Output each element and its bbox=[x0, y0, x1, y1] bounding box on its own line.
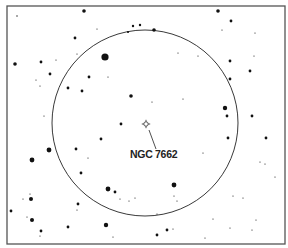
star bbox=[251, 229, 252, 230]
star bbox=[139, 24, 141, 26]
star bbox=[249, 70, 252, 73]
star bbox=[255, 219, 256, 220]
star bbox=[127, 31, 129, 33]
star bbox=[114, 191, 117, 194]
star bbox=[156, 234, 159, 237]
target-label: NGC 7662 bbox=[130, 148, 178, 160]
star bbox=[229, 60, 232, 63]
star bbox=[40, 230, 43, 233]
star bbox=[81, 90, 84, 93]
star-chart: NGC 7662 bbox=[0, 0, 288, 248]
star bbox=[120, 123, 123, 126]
star bbox=[172, 183, 177, 188]
star bbox=[101, 53, 108, 60]
star bbox=[76, 53, 77, 54]
star bbox=[29, 193, 30, 194]
star bbox=[212, 218, 213, 219]
star bbox=[88, 76, 91, 79]
star bbox=[132, 25, 134, 27]
star bbox=[104, 223, 108, 227]
star bbox=[67, 87, 70, 90]
star bbox=[96, 28, 97, 29]
star bbox=[40, 61, 43, 64]
star bbox=[265, 137, 268, 140]
star bbox=[176, 200, 177, 201]
star bbox=[29, 197, 33, 201]
star bbox=[229, 78, 232, 81]
star bbox=[106, 187, 111, 192]
star bbox=[30, 218, 34, 222]
star bbox=[87, 157, 88, 158]
star bbox=[230, 20, 233, 23]
star bbox=[47, 148, 52, 153]
star bbox=[77, 203, 80, 206]
star bbox=[22, 198, 23, 199]
star bbox=[134, 197, 135, 198]
star bbox=[253, 55, 254, 56]
star bbox=[39, 235, 40, 236]
star bbox=[128, 200, 129, 201]
star bbox=[35, 79, 36, 80]
star bbox=[202, 152, 203, 153]
star bbox=[166, 229, 169, 232]
star bbox=[26, 216, 27, 217]
star bbox=[226, 115, 229, 118]
star bbox=[204, 237, 205, 238]
star bbox=[216, 9, 220, 13]
star bbox=[16, 15, 17, 16]
star bbox=[75, 148, 78, 151]
star bbox=[129, 94, 133, 98]
star bbox=[254, 32, 255, 33]
star bbox=[100, 138, 103, 141]
star bbox=[49, 73, 52, 76]
star bbox=[55, 59, 56, 60]
star bbox=[10, 210, 13, 213]
star bbox=[74, 37, 77, 40]
star bbox=[182, 98, 183, 99]
star bbox=[156, 213, 157, 214]
star bbox=[82, 9, 86, 13]
star bbox=[39, 85, 40, 86]
star bbox=[177, 52, 178, 53]
star bbox=[227, 137, 230, 140]
star bbox=[242, 197, 243, 198]
star bbox=[251, 115, 254, 118]
star bbox=[274, 176, 275, 177]
star bbox=[112, 236, 113, 237]
star bbox=[229, 227, 230, 228]
star bbox=[80, 172, 83, 175]
star bbox=[30, 158, 35, 163]
star bbox=[152, 28, 156, 32]
star bbox=[223, 106, 227, 110]
star bbox=[221, 29, 222, 30]
star bbox=[259, 161, 260, 162]
star bbox=[107, 76, 108, 77]
star bbox=[232, 195, 233, 196]
star bbox=[13, 62, 17, 66]
star bbox=[76, 209, 77, 210]
star bbox=[264, 163, 265, 164]
star bbox=[197, 55, 198, 56]
star bbox=[151, 101, 152, 102]
star bbox=[67, 226, 70, 229]
star bbox=[119, 198, 120, 199]
star bbox=[173, 195, 174, 196]
star bbox=[172, 228, 173, 229]
star bbox=[43, 115, 44, 116]
